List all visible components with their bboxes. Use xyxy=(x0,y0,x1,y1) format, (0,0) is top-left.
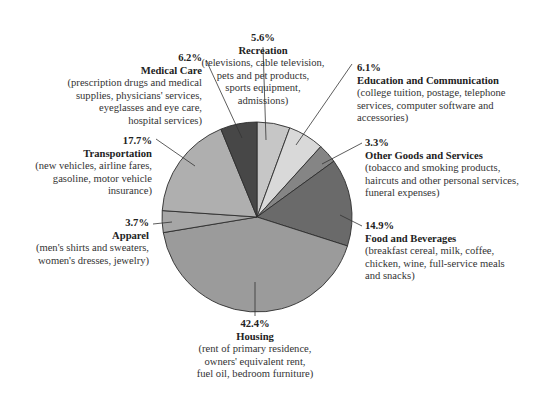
desc-housing-1: (rent of primary residence, xyxy=(180,343,330,356)
label-transportation: 17.7% Transportation (new vehicles, airl… xyxy=(30,135,152,198)
desc-housing-3: fuel oil, bedroom furniture) xyxy=(180,368,330,381)
label-housing: 42.4% Housing (rent of primary residence… xyxy=(180,318,330,381)
pct-education: 6.1% xyxy=(357,62,537,75)
desc-transportation-3: insurance) xyxy=(30,185,152,198)
desc-food-3: and snacks) xyxy=(365,270,543,283)
name-food: Food and Beverages xyxy=(365,233,543,246)
pct-transportation: 17.7% xyxy=(30,135,152,148)
desc-transportation-1: (new vehicles, airline fares, xyxy=(30,160,152,173)
desc-other-1: (tobacco and smoking products, xyxy=(365,162,543,175)
label-food: 14.9% Food and Beverages (breakfast cere… xyxy=(365,220,543,283)
name-recreation: Recreation xyxy=(196,45,330,58)
label-education: 6.1% Education and Communication (colleg… xyxy=(357,62,537,125)
pct-apparel: 3.7% xyxy=(25,217,149,230)
pct-other: 3.3% xyxy=(365,137,543,150)
desc-other-3: funeral expenses) xyxy=(365,187,543,200)
name-transportation: Transportation xyxy=(30,148,152,161)
desc-recreation-4: admissions) xyxy=(196,95,330,108)
desc-food-1: (breakfast cereal, milk, coffee, xyxy=(365,245,543,258)
label-medical: 6.2% Medical Care (prescription drugs an… xyxy=(20,52,202,128)
desc-medical-2: supplies, physicians' services, xyxy=(20,90,202,103)
desc-medical-1: (prescription drugs and medical xyxy=(20,77,202,90)
desc-recreation-2: pets and pet products, xyxy=(196,70,330,83)
desc-apparel-2: women's dresses, jewelry) xyxy=(25,255,149,268)
desc-education-1: (college tuition, postage, telephone xyxy=(357,87,537,100)
pie-slices xyxy=(162,122,352,312)
desc-medical-4: hospital services) xyxy=(20,115,202,128)
desc-recreation-1: (televisions, cable television, xyxy=(196,57,330,70)
desc-other-2: haircuts and other personal services, xyxy=(365,175,543,188)
name-other: Other Goods and Services xyxy=(365,150,543,163)
desc-education-3: accessories) xyxy=(357,112,537,125)
desc-medical-3: eyeglasses and eye care, xyxy=(20,102,202,115)
name-education: Education and Communication xyxy=(357,75,537,88)
desc-apparel-1: (men's shirts and sweaters, xyxy=(25,242,149,255)
pct-recreation: 5.6% xyxy=(196,32,330,45)
pct-food: 14.9% xyxy=(365,220,543,233)
desc-education-2: services, computer software and xyxy=(357,100,537,113)
pct-medical: 6.2% xyxy=(20,52,202,65)
name-medical: Medical Care xyxy=(20,65,202,78)
name-housing: Housing xyxy=(180,331,330,344)
pct-housing: 42.4% xyxy=(180,318,330,331)
label-recreation: 5.6% Recreation (televisions, cable tele… xyxy=(196,32,330,108)
desc-housing-2: owners' equivalent rent, xyxy=(180,356,330,369)
label-apparel: 3.7% Apparel (men's shirts and sweaters,… xyxy=(25,217,149,267)
desc-recreation-3: sports equipment, xyxy=(196,82,330,95)
name-apparel: Apparel xyxy=(25,230,149,243)
desc-food-2: chicken, wine, full-service meals xyxy=(365,258,543,271)
label-other: 3.3% Other Goods and Services (tobacco a… xyxy=(365,137,543,200)
desc-transportation-2: gasoline, motor vehicle xyxy=(30,173,152,186)
